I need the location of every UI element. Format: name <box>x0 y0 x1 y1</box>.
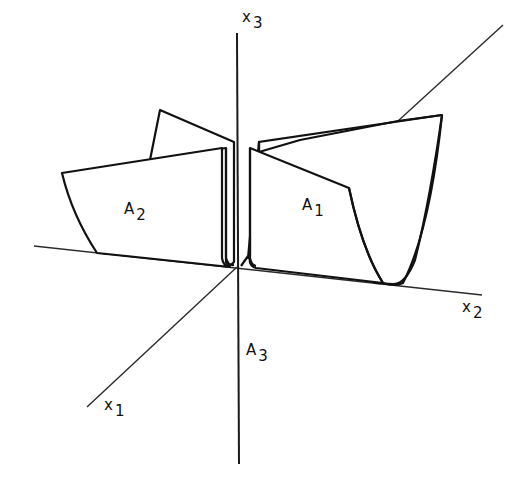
a1-letter: A <box>302 196 312 214</box>
x1-axis-label: x1 <box>104 398 124 413</box>
x3-axis-line <box>237 33 239 464</box>
x1-axis-line-back <box>398 25 503 121</box>
diagram-svg <box>0 0 518 481</box>
panel-a2 <box>62 148 230 267</box>
region-a2-label: A2 <box>124 202 146 217</box>
x3-letter: x <box>242 8 251 26</box>
a1-index: 1 <box>314 202 324 220</box>
x2-index: 2 <box>473 304 483 322</box>
a3-letter: A <box>246 341 256 359</box>
corner-notch <box>241 256 248 266</box>
a2-letter: A <box>124 200 134 218</box>
diagram-canvas: x3 x2 x1 A2 A1 A3 <box>0 0 518 481</box>
x2-axis-label: x2 <box>462 300 482 315</box>
x1-axis-line <box>87 267 237 407</box>
x2-letter: x <box>462 298 471 316</box>
region-a3-label: A3 <box>246 343 268 358</box>
x3-axis-label: x3 <box>242 10 262 25</box>
x1-index: 1 <box>115 402 125 420</box>
x3-index: 3 <box>253 14 263 32</box>
x1-letter: x <box>104 396 113 414</box>
a3-index: 3 <box>258 347 268 365</box>
region-a1-label: A1 <box>302 198 324 213</box>
a2-index: 2 <box>136 206 146 224</box>
